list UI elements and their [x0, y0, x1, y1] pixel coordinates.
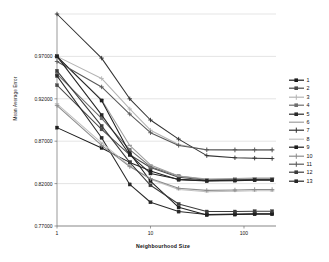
series-line [57, 128, 272, 181]
data-point-marker [100, 136, 103, 139]
data-point-marker [271, 178, 274, 181]
data-point-marker [55, 126, 58, 129]
legend-item-6[interactable]: 6 [288, 118, 329, 126]
series-line [57, 56, 272, 150]
data-point-marker [55, 84, 58, 87]
legend-item-9[interactable]: 9 [288, 143, 329, 151]
y-axis-tick-label: 0.97000 [34, 53, 52, 59]
legend-swatch-icon [288, 118, 305, 126]
series-line [57, 106, 272, 191]
data-point-marker [233, 147, 237, 151]
data-point-marker [55, 74, 58, 77]
legend-item-label: 12 [305, 168, 313, 176]
data-point-marker [252, 156, 256, 160]
data-point-marker [177, 202, 180, 205]
y-axis-tick-label: 0.92000 [34, 96, 52, 102]
legend-swatch-icon [288, 143, 305, 151]
legend-item-1[interactable]: 1 [288, 76, 329, 84]
data-point-marker [233, 156, 237, 160]
data-point-marker [128, 183, 131, 186]
chart-svg: 0.770000.820000.870000.920000.9700011010… [0, 0, 329, 262]
data-point-marker [252, 147, 256, 151]
y-axis-tick-label: 0.87000 [34, 138, 52, 144]
legend-item-label: 1 [305, 76, 310, 84]
data-point-marker [270, 147, 274, 151]
chart-legend: 12345678910111213 [288, 76, 329, 185]
data-point-marker [233, 179, 236, 182]
data-point-marker [128, 153, 131, 156]
data-point-marker [271, 213, 274, 216]
legend-swatch-icon [288, 101, 305, 109]
legend-swatch-icon [288, 84, 305, 92]
legend-item-label: 4 [305, 101, 310, 109]
legend-swatch-icon [288, 160, 305, 168]
data-point-marker [100, 124, 103, 127]
legend-item-13[interactable]: 13 [288, 177, 329, 185]
legend-item-11[interactable]: 11 [288, 160, 329, 168]
series-line [57, 56, 272, 180]
data-point-marker [100, 99, 103, 102]
data-point-marker [149, 172, 152, 175]
legend-item-3[interactable]: 3 [288, 93, 329, 101]
legend-swatch-icon [288, 168, 305, 176]
series-line [57, 57, 272, 179]
legend-item-4[interactable]: 4 [288, 101, 329, 109]
legend-swatch-icon [288, 135, 305, 143]
legend-item-7[interactable]: 7 [288, 126, 329, 134]
legend-item-8[interactable]: 8 [288, 135, 329, 143]
data-point-marker [233, 213, 236, 216]
legend-item-2[interactable]: 2 [288, 84, 329, 92]
data-point-marker [177, 178, 180, 181]
x-axis-tick-label: 100 [240, 230, 249, 236]
data-point-marker [55, 55, 58, 58]
legend-item-label: 9 [305, 143, 310, 151]
legend-swatch-icon [288, 93, 305, 101]
legend-item-label: 7 [305, 126, 310, 134]
series-line [57, 74, 272, 180]
legend-item-10[interactable]: 10 [288, 152, 329, 160]
plot-area: 0.770000.820000.870000.920000.9700011010… [0, 0, 329, 262]
data-point-marker [205, 153, 209, 157]
data-point-marker [253, 178, 256, 181]
legend-item-label: 2 [305, 84, 310, 92]
x-axis-tick-label: 10 [148, 230, 154, 236]
data-point-marker [128, 161, 131, 164]
data-point-marker [205, 179, 208, 182]
data-point-marker [233, 210, 236, 213]
y-axis-tick-label: 0.77000 [34, 223, 52, 229]
x-axis-tick-label: 1 [56, 230, 59, 236]
data-point-marker [253, 213, 256, 216]
data-point-marker [253, 210, 256, 213]
legend-swatch-icon [288, 126, 305, 134]
data-point-marker [177, 206, 180, 209]
data-point-marker [205, 213, 208, 216]
legend-item-label: 13 [305, 177, 313, 185]
y-axis-tick-label: 0.82000 [34, 181, 52, 187]
data-point-marker [270, 156, 274, 160]
chart-figure: 0.770000.820000.870000.920000.9700011010… [0, 0, 329, 262]
data-point-marker [149, 201, 152, 204]
legend-item-label: 5 [305, 110, 310, 118]
y-axis-title: Mean Average Error [13, 54, 18, 144]
series-4 [55, 73, 273, 182]
legend-swatch-icon [288, 177, 305, 185]
legend-item-12[interactable]: 12 [288, 168, 329, 176]
data-point-marker [55, 59, 59, 63]
legend-item-label: 3 [305, 93, 310, 101]
legend-swatch-icon [288, 152, 305, 160]
legend-item-label: 6 [305, 118, 310, 126]
series-11 [55, 59, 275, 152]
legend-item-label: 10 [305, 152, 313, 160]
x-axis-title: Neighbourhood Size [55, 243, 271, 249]
data-point-marker [205, 147, 209, 151]
data-point-marker [271, 210, 274, 213]
series-3 [55, 54, 275, 153]
legend-item-5[interactable]: 5 [288, 110, 329, 118]
legend-item-label: 11 [305, 160, 312, 168]
legend-swatch-icon [288, 76, 305, 84]
data-point-marker [100, 113, 103, 116]
legend-swatch-icon [288, 110, 305, 118]
data-point-marker [177, 210, 180, 213]
legend-item-label: 8 [305, 135, 310, 143]
data-point-marker [205, 210, 208, 213]
